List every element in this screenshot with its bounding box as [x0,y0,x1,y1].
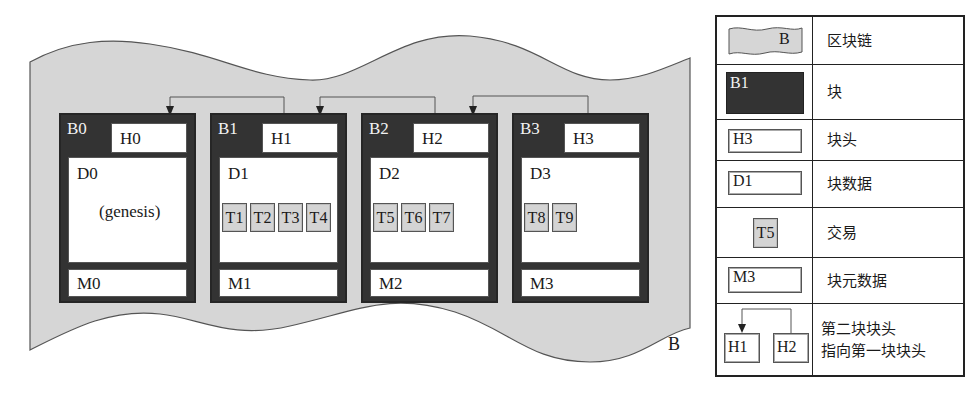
transaction-list: T8 T9 [524,203,577,232]
transaction: T9 [552,203,577,232]
transaction: T5 [373,203,398,232]
legend-text: 块元数据 [813,258,963,303]
block-data-label: D1 [228,164,249,183]
transaction: T1 [222,203,247,232]
legend-text: 第二块块头 指向第一块块头 [813,304,963,375]
block-header: H3 [564,123,640,153]
legend-icon-label: B1 [730,74,749,92]
legend-row-block-data: D1 块数据 [717,160,963,207]
transaction: T2 [250,203,275,232]
legend-row-block: B1 块 [717,64,963,119]
block-label: B2 [369,119,389,139]
header-link-icon: H1 H2 [717,304,813,375]
legend-icon-label: H3 [728,129,802,153]
block-data: D1 T1 T2 T3 T4 [219,157,338,263]
block-metadata: M2 [370,269,489,297]
transaction-list: T1 T2 T3 T4 [222,203,331,232]
block-data-label: D3 [530,164,551,183]
transaction: T6 [401,203,426,232]
legend-table: B 区块链 B1 块 H3 块头 D1 块数据 T5 交易 M3 块元数据 [715,15,965,377]
transaction: T8 [524,203,549,232]
data-box-icon: D1 [717,161,813,207]
transaction: T7 [429,203,454,232]
transaction: T3 [278,203,303,232]
legend-icon-label: D1 [728,171,802,195]
legend-text-line1: 第二块块头 [821,318,896,340]
legend-text-line2: 指向第一块块头 [821,340,926,362]
transaction-list: T5 T6 T7 [373,203,454,232]
block-dark-icon: B1 [717,65,813,119]
block-b3: B3 H3 D3 T8 T9 M3 [512,113,649,303]
block-label: B3 [520,119,540,139]
block-data-label: D0 [77,164,98,183]
legend-text: 块数据 [813,161,963,207]
block-metadata: M1 [219,269,338,297]
block-metadata: M0 [68,269,187,297]
block-data: D3 T8 T9 [521,157,640,263]
legend-icon-label: B [779,30,790,48]
block-data: D0 (genesis) [68,157,187,263]
metadata-box-icon: M3 [717,258,813,303]
block-b0: B0 H0 D0 (genesis) M0 [59,113,196,303]
transaction: T4 [306,203,331,232]
legend-icon-label: M3 [728,267,802,293]
block-header: H1 [262,123,338,153]
block-header: H2 [413,123,489,153]
block-label: B0 [67,119,87,139]
legend-icon-label: H1 [724,333,760,363]
block-data: D2 T5 T6 T7 [370,157,489,263]
blockchain-wave-icon: B [717,17,813,64]
block-metadata: M3 [521,269,640,297]
legend-icon-label: T5 [753,218,778,248]
block-label: B1 [218,119,238,139]
legend-text: 交易 [813,208,963,257]
legend-row-transaction: T5 交易 [717,207,963,257]
block-data-label: D2 [379,164,400,183]
legend-row-header-link: H1 H2 第二块块头 指向第一块块头 [717,303,963,375]
block-b1: B1 H1 D1 T1 T2 T3 T4 M1 [210,113,347,303]
genesis-note: (genesis) [99,202,160,222]
block-header: H0 [111,123,187,153]
legend-row-header: H3 块头 [717,119,963,160]
legend-text: 块头 [813,120,963,160]
block-b2: B2 H2 D2 T5 T6 T7 M2 [361,113,498,303]
transaction-box-icon: T5 [717,208,813,257]
legend-text: 区块链 [813,17,963,64]
legend-icon-label: H2 [773,333,809,363]
legend-row-blockchain: B 区块链 [717,17,963,64]
legend-text: 块 [813,65,963,119]
blockchain-label: B [668,334,680,355]
header-box-icon: H3 [717,120,813,160]
legend-row-metadata: M3 块元数据 [717,257,963,303]
